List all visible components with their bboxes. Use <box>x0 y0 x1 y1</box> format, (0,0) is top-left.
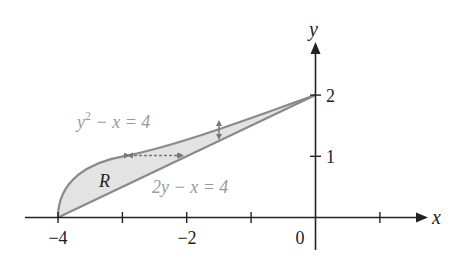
parabola-label-rest: − x = 4 <box>91 112 150 132</box>
region-diagram: x y −4 −2 0 1 2 y2 − x = 4 2y − x = 4 R <box>0 0 472 269</box>
x-axis-arrow-icon <box>416 213 428 223</box>
vertical-arrow-top-head <box>216 120 222 126</box>
region-label: R <box>98 171 110 191</box>
parabola-label: y2 − x = 4 <box>75 109 150 132</box>
y-tick-label-1: 1 <box>326 147 335 167</box>
parabola-label-base: y <box>75 112 85 132</box>
y-axis-label: y <box>307 18 318 41</box>
x-tick-label-neg4: −4 <box>48 228 67 248</box>
y-axis-arrow-icon <box>311 42 321 54</box>
x-tick-label-neg2: −2 <box>177 228 196 248</box>
line-label: 2y − x = 4 <box>152 177 228 197</box>
x-axis-label: x <box>431 206 441 228</box>
x-tick-label-0: 0 <box>296 228 305 248</box>
y-tick-label-2: 2 <box>326 86 335 106</box>
